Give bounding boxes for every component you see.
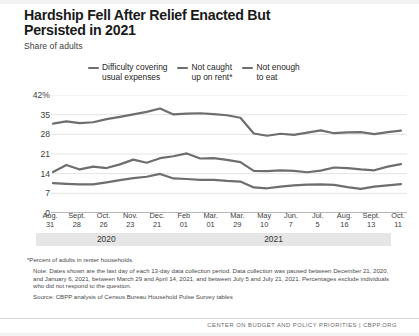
- legend-label: Not enough to eat: [256, 63, 299, 82]
- legend-line-icon: [242, 67, 253, 70]
- series-line: [53, 108, 401, 135]
- legend-item-rent: Not caught up on rent*: [177, 63, 232, 82]
- y-tick-label: 21: [40, 149, 50, 159]
- footnote-star: *Percent of adults in renter households.: [27, 256, 397, 263]
- series-line: [53, 174, 401, 189]
- y-tick-label: 35: [40, 110, 50, 120]
- y-tick-label: 28: [40, 129, 50, 139]
- chart-subtitle: Share of adults: [24, 41, 402, 51]
- x-tick-label: Mar.29: [230, 212, 244, 229]
- x-tick-label: Jun.7: [284, 212, 298, 229]
- legend-line-icon: [88, 67, 99, 70]
- y-tick-label: 42%: [33, 90, 50, 100]
- x-tick-label: Oct.26: [97, 212, 111, 229]
- x-tick-label: Aug.31: [42, 212, 57, 229]
- page-title: Hardship Fell After Relief Enacted But P…: [24, 8, 314, 37]
- top-accent-bar: [0, 0, 419, 4]
- x-tick-label: Jul.5: [312, 212, 324, 229]
- x-tick-label: May10: [257, 212, 271, 229]
- x-tick-label: Dec.21: [149, 212, 164, 229]
- year-band: 2021: [156, 233, 390, 246]
- series-line: [53, 153, 401, 172]
- footer-attribution: CENTER ON BUDGET AND POLICY PRIORITIES |…: [207, 322, 397, 328]
- x-tick-label: Oct.11: [391, 212, 405, 229]
- x-tick-label: Mar.01: [203, 212, 217, 229]
- legend-label: Difficulty covering usual expenses: [102, 63, 167, 82]
- legend-label: Not caught up on rent*: [191, 63, 232, 82]
- y-tick-label: 7: [45, 188, 50, 198]
- y-axis-labels: 071421283542%: [24, 95, 50, 213]
- footnote-note: Note: Dates shown are the last day of ea…: [27, 267, 397, 289]
- line-chart-svg: [51, 95, 407, 213]
- legend-item-difficulty: Difficulty covering usual expenses: [88, 63, 167, 82]
- legend-item-food: Not enough to eat: [242, 63, 299, 82]
- x-tick-label: Sept.28: [68, 212, 85, 229]
- x-tick-label: Nov.23: [123, 212, 138, 229]
- legend-line-icon: [177, 67, 188, 70]
- year-band: 2020: [36, 233, 176, 246]
- header-block: Hardship Fell After Relief Enacted But P…: [24, 8, 402, 51]
- x-tick-label: Sept.13: [363, 212, 380, 229]
- chart-card: Hardship Fell After Relief Enacted But P…: [0, 0, 419, 336]
- chart-legend: Difficulty covering usual expenses Not c…: [88, 63, 378, 82]
- x-tick-label: Aug.16: [337, 212, 352, 229]
- plot-area: 071421283542%: [24, 95, 402, 213]
- footnote-source: Source: CBPP analysis of Census Bureau H…: [27, 293, 397, 300]
- notes-block: *Percent of adults in renter households.…: [27, 256, 397, 303]
- y-tick-label: 14: [40, 169, 50, 179]
- x-tick-label: Feb01: [177, 212, 190, 229]
- year-bands: 20202021: [48, 233, 404, 246]
